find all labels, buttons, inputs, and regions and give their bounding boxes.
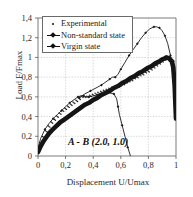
legend-label-experimental: Experimental xyxy=(61,18,107,29)
experimental-point xyxy=(69,107,70,108)
experimental-point xyxy=(143,74,144,75)
experimental-point xyxy=(71,105,72,106)
experimental-point xyxy=(74,103,75,104)
experimental-point xyxy=(129,81,130,82)
experimental-point xyxy=(115,87,116,88)
experimental-point xyxy=(77,101,78,102)
experimental-point xyxy=(124,84,125,85)
line-diamond-marker-icon xyxy=(46,30,61,41)
plot-annotation: A - B (2.0, 1.0) xyxy=(68,136,128,147)
experimental-point xyxy=(140,75,141,76)
experimental-point xyxy=(127,82,128,83)
experimental-point xyxy=(173,60,174,61)
experimental-point xyxy=(46,131,47,132)
legend-item-non-standard-state: Non-standard state xyxy=(46,30,132,42)
experimental-point xyxy=(168,58,169,59)
legend-label-non-standard-state: Non-standard state xyxy=(61,30,125,41)
dot-marker-icon xyxy=(46,18,61,29)
experimental-point xyxy=(80,99,81,100)
x-tick-label-0-2: 0,2 xyxy=(56,161,76,170)
experimental-point xyxy=(58,117,59,118)
x-tick-label-0-4: 0,4 xyxy=(83,161,103,170)
x-tick-label-0: 0 xyxy=(28,161,48,170)
chart-figure: 1,4 1,2 1 0,8 0,6 0,4 0,2 0 0 0,2 0,4 0,… xyxy=(0,0,193,197)
y-tick-label-0: 0 xyxy=(8,152,32,161)
x-tick-label-1: 1 xyxy=(166,161,186,170)
experimental-point xyxy=(110,89,111,90)
legend-item-experimental: Experimental xyxy=(46,18,132,30)
x-axis-title: Displacement U/Umax xyxy=(38,177,178,187)
experimental-point xyxy=(63,111,64,112)
legend-label-virgin-state: Virgin state xyxy=(61,41,100,52)
x-tick-label-0-6: 0,6 xyxy=(111,161,131,170)
experimental-point xyxy=(44,137,45,138)
experimental-point xyxy=(157,65,158,66)
experimental-point xyxy=(55,120,56,121)
experimental-point xyxy=(113,88,114,89)
y-axis-title: Load F/Fmax xyxy=(14,35,24,115)
y-tick-label-0-2: 0,2 xyxy=(8,132,32,141)
experimental-point xyxy=(132,80,133,81)
experimental-point xyxy=(138,77,139,78)
experimental-point xyxy=(154,67,155,68)
line-diamond-marker-icon-2 xyxy=(46,41,61,52)
experimental-point xyxy=(38,149,39,150)
experimental-point xyxy=(162,61,163,62)
experimental-point xyxy=(66,109,67,110)
experimental-point xyxy=(52,122,53,123)
experimental-point xyxy=(49,126,50,127)
experimental-point xyxy=(121,85,122,86)
experimental-point xyxy=(160,63,161,64)
x-tick-label-0-8: 0,8 xyxy=(138,161,158,170)
legend-item-virgin-state: Virgin state xyxy=(46,41,132,53)
chart-legend: Experimental Non-standard state Virgin s… xyxy=(42,16,133,53)
experimental-point xyxy=(146,72,147,73)
experimental-point xyxy=(151,69,152,70)
experimental-point xyxy=(149,71,150,72)
experimental-point xyxy=(107,90,108,91)
experimental-point xyxy=(60,114,61,115)
experimental-point xyxy=(135,78,136,79)
y-tick-label-1-4: 1,4 xyxy=(8,14,32,23)
experimental-point xyxy=(41,143,42,144)
experimental-point xyxy=(118,86,119,87)
experimental-point xyxy=(165,59,166,60)
